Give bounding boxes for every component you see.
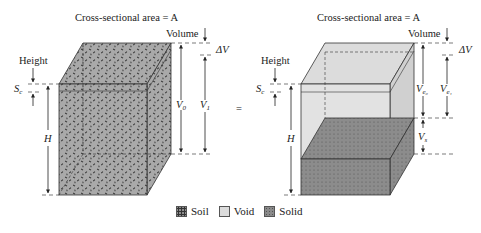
left-area-label: Cross-sectional area = A [75, 12, 178, 23]
legend-label: Soil [191, 205, 209, 217]
right-vs-label: Vs [418, 131, 427, 144]
right-ve0-label: Ve₀ [416, 83, 429, 96]
right-ve1-label: Ve₁ [440, 83, 452, 96]
left-sc-label: Sc [14, 83, 23, 96]
left-volume-label: Volume [166, 28, 199, 39]
right-h-label: H [286, 133, 296, 144]
legend-item-soil: Soil [176, 205, 209, 217]
consolidation-diagram: Cross-sectional area = A Volume ΔV V0 V1… [0, 0, 481, 233]
legend-item-solid: Solid [264, 205, 302, 217]
right-delta-v: ΔV [458, 44, 473, 55]
soil-swatch-icon [176, 206, 187, 217]
legend: Soil Void Solid [176, 205, 303, 217]
right-sc-label: Sc [256, 83, 265, 96]
left-delta-v: ΔV [215, 44, 230, 55]
right-area-label: Cross-sectional area = A [317, 12, 420, 23]
left-v1-label: V1 [200, 99, 210, 112]
solid-swatch-icon [264, 206, 275, 217]
left-soil-box [59, 43, 171, 195]
legend-label: Solid [279, 205, 302, 217]
legend-item-void: Void [219, 205, 255, 217]
right-phase-box [301, 43, 414, 195]
equals-sign: = [236, 103, 242, 114]
void-swatch-icon [219, 206, 230, 217]
right-height-label: Height [261, 55, 290, 66]
left-h-label: H [43, 133, 53, 144]
left-height-label: Height [19, 55, 48, 66]
legend-label: Void [234, 205, 255, 217]
right-volume-label: Volume [408, 28, 441, 39]
